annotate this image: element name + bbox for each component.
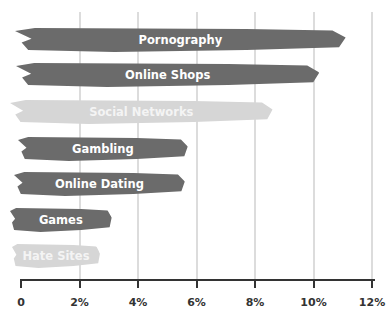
bar-chart: 02%4%6%8%10%12%PornographyOnline ShopsSo… bbox=[0, 0, 391, 325]
bar-label: Games bbox=[39, 213, 83, 227]
bar-games: Games bbox=[10, 208, 112, 232]
bar-online-dating: Online Dating bbox=[14, 172, 185, 196]
bar-label: Online Dating bbox=[55, 177, 144, 191]
bar-online-shops: Online Shops bbox=[16, 63, 319, 87]
x-axis bbox=[20, 279, 375, 281]
gridline bbox=[196, 12, 198, 280]
gridline bbox=[313, 12, 315, 280]
bar-label: Pornography bbox=[139, 33, 223, 47]
x-tick-label: 0 bbox=[17, 296, 25, 309]
bar-label: Hate Sites bbox=[22, 249, 89, 263]
bar-pornography: Pornography bbox=[15, 28, 346, 52]
x-tick-label: 10% bbox=[300, 296, 326, 309]
x-tick-label: 6% bbox=[187, 296, 206, 309]
gridline bbox=[254, 12, 256, 280]
x-tick-label: 12% bbox=[359, 296, 385, 309]
bar-gambling: Gambling bbox=[18, 137, 188, 161]
gridline bbox=[371, 12, 373, 280]
bar-label: Social Networks bbox=[89, 105, 193, 119]
bar-label: Online Shops bbox=[125, 68, 210, 82]
x-tick-label: 8% bbox=[246, 296, 265, 309]
bar-hate-sites: Hate Sites bbox=[12, 244, 100, 268]
x-tick-label: 4% bbox=[129, 296, 148, 309]
bar-label: Gambling bbox=[72, 142, 134, 156]
x-tick-label: 2% bbox=[70, 296, 89, 309]
bar-social-networks: Social Networks bbox=[10, 100, 273, 124]
